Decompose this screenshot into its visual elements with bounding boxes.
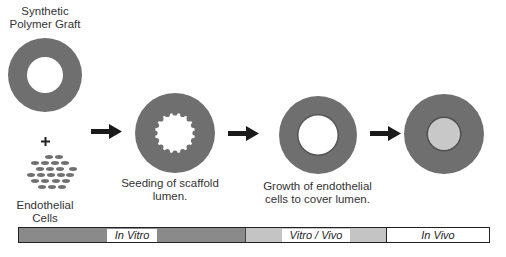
- cells-label-line2: Cells: [5, 212, 85, 225]
- arrow-right-icon: [91, 124, 122, 139]
- graft-ring-covered: [279, 96, 357, 174]
- plus-icon: [41, 137, 50, 146]
- cells-label-line1: Endothelial: [5, 199, 85, 212]
- arrow-right-icon: [370, 126, 401, 141]
- stage2-label-line2: lumen.: [115, 190, 225, 203]
- graft-ring-seeded: [135, 93, 215, 173]
- stage2-label-line1: Seeding of scaffold: [115, 177, 225, 190]
- timeline-segment-vitro-vivo: Vitro / Vivo: [245, 228, 386, 242]
- timeline-bar: In Vitro Vitro / Vivo In Vivo: [18, 227, 490, 243]
- stage3-label-line2: cells to cover lumen.: [255, 193, 380, 206]
- graft-ring-in-vivo: [404, 94, 484, 174]
- endothelial-cells-icon: [27, 155, 77, 189]
- stage3-label-line1: Growth of endothelial: [255, 180, 380, 193]
- timeline-label: In Vitro: [107, 229, 158, 242]
- graft-ring-stage1: [8, 38, 82, 112]
- timeline-segment-in-vitro: In Vitro: [19, 228, 245, 242]
- timeline-label: Vitro / Vivo: [282, 229, 351, 242]
- timeline-segment-in-vivo: In Vivo: [386, 228, 489, 242]
- timeline-label: In Vivo: [413, 229, 462, 242]
- arrow-right-icon: [228, 126, 259, 141]
